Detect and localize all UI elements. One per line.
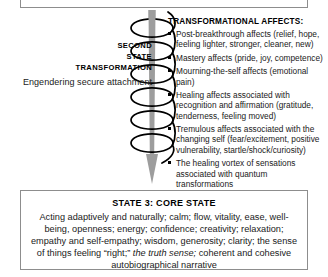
list-item: Mastery affects (pride, joy, competence)	[168, 53, 326, 63]
list-item: Tremulous affects associated with the ch…	[168, 124, 326, 155]
transformational-affects-list: Post-breakthrough affects (relief, hope,…	[168, 29, 326, 189]
list-item-text: The healing vortex of sensations associa…	[176, 158, 295, 189]
square-bullet-icon	[168, 56, 171, 59]
list-item-text: Healing affects associated with recognit…	[176, 90, 313, 121]
label-state: STATE	[0, 51, 152, 62]
list-item: Mourning-the-self affects (emotional pai…	[168, 66, 326, 87]
square-bullet-icon	[168, 127, 171, 130]
core-state-body: Acting adaptively and naturally; calm; f…	[27, 211, 301, 271]
list-item-text: Tremulous affects associated with the ch…	[176, 124, 319, 155]
core-state-title: STATE 3: CORE STATE	[27, 198, 301, 208]
label-transformation: TRANSFORMATION	[0, 62, 152, 73]
transformational-affects-section: TRANSFORMATIONAL AFFECTS: Post-breakthro…	[168, 17, 326, 192]
square-bullet-icon	[168, 93, 171, 96]
list-item-text: Mourning-the-self affects (emotional pai…	[176, 66, 308, 86]
list-item-text: Mastery affects (pride, joy, competence)	[176, 53, 323, 63]
list-item-text: Post-breakthrough affects (relief, hope,…	[176, 29, 319, 49]
square-bullet-icon	[168, 32, 171, 35]
list-item: The healing vortex of sensations associa…	[168, 158, 326, 189]
square-bullet-icon	[168, 161, 171, 164]
label-second: SECOND	[0, 40, 152, 51]
core-state-box: STATE 3: CORE STATE Acting adaptively an…	[20, 190, 308, 270]
list-item: Post-breakthrough affects (relief, hope,…	[168, 29, 326, 50]
second-state-transformation-label: SECOND STATE TRANSFORMATION Engendering …	[0, 40, 152, 89]
square-bullet-icon	[168, 69, 171, 72]
diagram-canvas: SECOND STATE TRANSFORMATION Engendering …	[0, 0, 328, 277]
transformational-affects-title: TRANSFORMATIONAL AFFECTS:	[168, 17, 326, 26]
core-state-body-italic: the truth sense;	[133, 248, 196, 258]
label-engendering-secure-attachment: Engendering secure attachment	[0, 76, 152, 89]
list-item: Healing affects associated with recognit…	[168, 90, 326, 121]
